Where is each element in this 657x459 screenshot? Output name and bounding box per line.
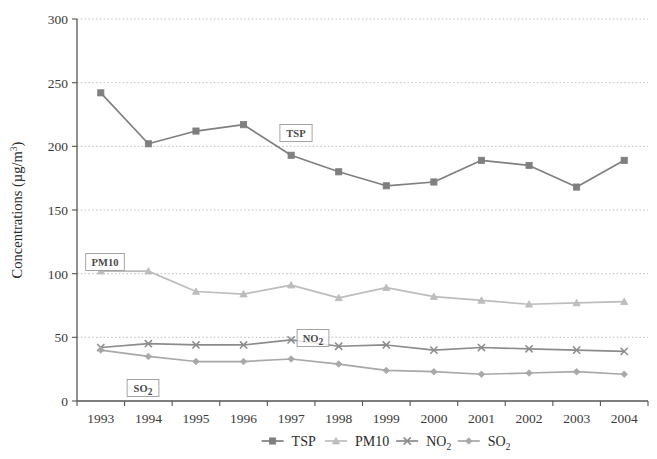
x-tick-label: 1996	[230, 411, 257, 426]
data-point-marker-diamond	[335, 361, 342, 368]
data-point-marker-diamond	[383, 367, 390, 374]
x-tick-label: 1999	[373, 411, 400, 426]
data-point-marker-diamond	[478, 371, 485, 378]
data-point-marker-diamond	[573, 368, 580, 375]
x-tick-label: 2004	[611, 411, 638, 426]
series-tsp	[98, 90, 628, 190]
y-tick-label: 250	[48, 76, 69, 91]
data-point-marker-square	[431, 179, 437, 185]
y-axis-title-text: Concentrations (µg/m3)	[9, 141, 26, 278]
annotation-pm10: PM10	[86, 254, 125, 271]
data-point-marker-square	[383, 183, 389, 189]
line-chart: 050100150200250300 199319941995199619971…	[0, 0, 657, 459]
x-tick-label: 1997	[278, 411, 305, 426]
data-point-marker-square	[98, 90, 104, 96]
annotation-label: PM10	[92, 257, 119, 268]
data-point-marker-square	[193, 128, 199, 134]
x-tick-label: 1998	[325, 411, 352, 426]
legend-item-tsp[interactable]: TSP	[262, 434, 316, 449]
data-point-marker-diamond	[240, 358, 247, 365]
x-tick-label: 1995	[182, 411, 209, 426]
x-axis-tick-labels: 1993199419951996199719981999200020012002…	[87, 411, 638, 426]
y-axis-tick-labels: 050100150200250300	[48, 12, 69, 409]
series-line	[101, 340, 624, 351]
series-line	[101, 350, 624, 374]
y-tick-label: 300	[48, 12, 69, 27]
series-no2	[97, 336, 628, 355]
chart-legend: TSPPM10NO2SO2	[262, 434, 511, 452]
data-point-marker-diamond	[621, 371, 628, 378]
y-tick-label: 150	[48, 203, 69, 218]
x-tick-label: 2001	[468, 411, 495, 426]
legend-label: TSP	[292, 434, 316, 449]
annotation-no2: NO2	[297, 330, 329, 348]
series-line	[101, 93, 624, 187]
legend-label: NO2	[426, 434, 451, 452]
y-axis-title: Concentrations (µg/m3)	[9, 141, 26, 278]
series-annotations: TSPPM10NO2SO2	[86, 125, 329, 398]
y-tick-label: 100	[48, 267, 69, 282]
y-tick-label: 200	[48, 139, 69, 154]
y-tick-label: 50	[55, 330, 69, 345]
data-point-marker-square	[145, 141, 151, 147]
legend-item-no2[interactable]: NO2	[396, 434, 451, 452]
data-series-layer	[97, 90, 628, 378]
annotation-so2: SO2	[127, 380, 159, 398]
x-tick-label: 1993	[87, 411, 114, 426]
x-tick-label: 2003	[563, 411, 590, 426]
data-point-marker-diamond	[193, 358, 200, 365]
legend-item-pm10[interactable]: PM10	[325, 434, 389, 449]
annotation-label: TSP	[286, 128, 306, 139]
legend-label: PM10	[355, 434, 389, 449]
data-point-marker-square	[478, 157, 484, 163]
data-point-marker-square	[270, 438, 276, 444]
data-point-marker-diamond	[431, 368, 438, 375]
data-point-marker-diamond	[145, 353, 152, 360]
x-tick-label: 2002	[516, 411, 543, 426]
axes	[72, 19, 648, 406]
data-point-marker-square	[240, 122, 246, 128]
data-point-marker-square	[574, 184, 580, 190]
data-point-marker-square	[526, 162, 532, 168]
data-point-marker-diamond	[288, 356, 295, 363]
y-tick-label: 0	[61, 394, 68, 409]
legend-label: SO2	[488, 434, 511, 452]
series-line	[101, 271, 624, 304]
data-point-marker-square	[336, 169, 342, 175]
series-so2	[97, 347, 627, 378]
data-point-marker-diamond	[466, 438, 473, 445]
x-tick-label: 2000	[420, 411, 447, 426]
x-tick-label: 1994	[135, 411, 162, 426]
chart-container: 050100150200250300 199319941995199619971…	[0, 0, 657, 459]
data-point-marker-square	[288, 152, 294, 158]
annotation-tsp: TSP	[280, 125, 312, 142]
data-point-marker-square	[621, 157, 627, 163]
legend-item-so2[interactable]: SO2	[458, 434, 511, 452]
data-point-marker-diamond	[526, 370, 533, 377]
